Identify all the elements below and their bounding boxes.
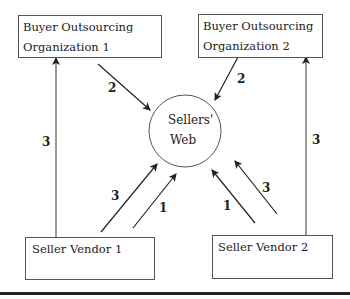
bottom-rule xyxy=(0,292,350,295)
buyer-org-2-line2: Organization 2 xyxy=(203,39,290,53)
arrow-seller1-to-web-3 xyxy=(101,164,157,232)
edge-label-buyer2-web: 2 xyxy=(237,72,245,86)
buyer-org-2-line1: Buyer Outsourcing xyxy=(203,19,313,33)
edge-label-seller2-web-1: 1 xyxy=(223,199,231,213)
seller-vendor-1-label: Seller Vendor 1 xyxy=(32,242,122,256)
arrow-seller1-to-web-1 xyxy=(133,174,176,228)
edge-label-seller1-web-1: 1 xyxy=(159,201,167,215)
edge-label-seller2-buyer2: 3 xyxy=(312,133,320,147)
buyer-org-1-line2: Organization 1 xyxy=(23,40,110,54)
seller-vendor-2-label: Seller Vendor 2 xyxy=(218,240,308,254)
sellers-web-line2: Web xyxy=(170,133,196,147)
edge-label-seller2-web-3: 3 xyxy=(262,181,270,195)
buyer-org-1-line1: Buyer Outsourcing xyxy=(23,20,133,34)
arrow-buyer1-to-web xyxy=(98,64,150,110)
edge-label-buyer1-web: 2 xyxy=(108,81,116,95)
edge-label-seller1-web-3: 3 xyxy=(111,189,119,203)
sellers-web-circle xyxy=(149,95,221,167)
arrow-buyer2-to-web xyxy=(215,57,238,100)
sellers-web-line1: Sellers' xyxy=(168,113,213,127)
edge-label-seller1-buyer1: 3 xyxy=(42,135,50,149)
